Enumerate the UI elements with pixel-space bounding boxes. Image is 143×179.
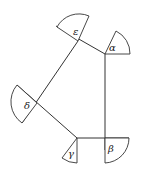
angle-label-beta: β <box>107 143 114 154</box>
angle-label-alpha: α <box>109 42 116 53</box>
angle-label-delta: δ <box>24 100 30 111</box>
angle-label-gamma: γ <box>68 148 74 159</box>
angle-label-epsilon: ε <box>73 26 78 37</box>
diagram-canvas: ε α δ γ β <box>0 0 143 179</box>
angle-diagram: ε α δ γ β <box>0 0 143 179</box>
